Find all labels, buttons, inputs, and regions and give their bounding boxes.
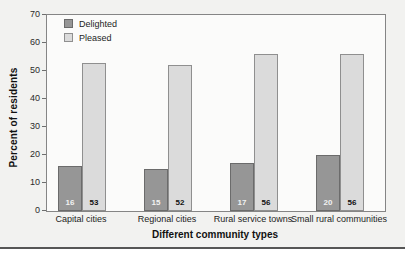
bar-pleased-2: 56 [254, 54, 278, 211]
legend: Delighted Pleased [64, 17, 117, 44]
bar-value-label: 15 [145, 198, 167, 207]
y-tick-label-10: 10 [14, 177, 40, 187]
y-tick-label-20: 20 [14, 149, 40, 159]
y-tick-mark [42, 70, 46, 71]
legend-label-delighted: Delighted [79, 19, 117, 29]
y-tick-mark [42, 126, 46, 127]
y-tick-mark [42, 98, 46, 99]
bar-pleased-0: 53 [82, 63, 106, 211]
bar-value-label: 16 [59, 198, 81, 207]
bar-value-label: 56 [255, 198, 277, 207]
y-tick-mark [42, 154, 46, 155]
y-tick-mark [42, 182, 46, 183]
legend-label-pleased: Pleased [79, 33, 112, 43]
legend-item-pleased: Pleased [64, 31, 117, 44]
x-axis-title: Different community types [46, 229, 384, 240]
bar-value-label: 53 [83, 198, 105, 207]
bar-delighted-2: 17 [230, 163, 254, 211]
bar-value-label: 52 [169, 198, 191, 207]
y-tick-mark [42, 210, 46, 211]
bar-delighted-0: 16 [58, 166, 82, 211]
bar-value-label: 20 [317, 198, 339, 207]
legend-swatch-pleased-icon [64, 33, 73, 42]
y-tick-label-50: 50 [14, 65, 40, 75]
bar-value-label: 56 [341, 198, 363, 207]
legend-item-delighted: Delighted [64, 17, 117, 30]
bar-chart-figure: Percent of residents Delighted Pleased 1… [0, 0, 405, 258]
bar-pleased-1: 52 [168, 65, 192, 211]
y-tick-label-40: 40 [14, 93, 40, 103]
y-tick-mark [42, 42, 46, 43]
y-tick-label-60: 60 [14, 37, 40, 47]
bar-value-label: 17 [231, 198, 253, 207]
category-label-3: Small rural communities [283, 214, 395, 224]
bar-pleased-3: 56 [340, 54, 364, 211]
y-tick-label-30: 30 [14, 121, 40, 131]
plot-area: Delighted Pleased 1615172053525656 [46, 14, 386, 212]
y-tick-label-70: 70 [14, 9, 40, 19]
figure-paper: Percent of residents Delighted Pleased 1… [0, 0, 405, 249]
legend-swatch-delighted-icon [64, 19, 73, 28]
bar-delighted-1: 15 [144, 169, 168, 211]
bar-delighted-3: 20 [316, 155, 340, 211]
y-tick-mark [42, 14, 46, 15]
